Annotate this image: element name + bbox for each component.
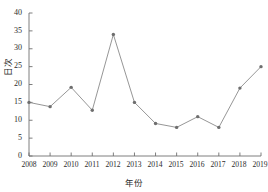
x-axis-ticks <box>29 153 261 157</box>
data-point-2010 <box>69 86 72 89</box>
data-point-2009 <box>48 105 51 108</box>
data-point-2015 <box>175 126 178 129</box>
series-markers <box>27 33 262 129</box>
data-point-2011 <box>91 109 94 112</box>
data-point-2017 <box>217 126 220 129</box>
data-point-2008 <box>27 101 30 104</box>
y-axis-ticks <box>29 13 33 156</box>
axes <box>29 13 261 156</box>
plot-area <box>0 0 268 192</box>
line-chart: 日次 0 5 10 15 20 25 30 35 40 2008 2009 20… <box>0 0 268 192</box>
data-point-2012 <box>112 33 115 36</box>
series-line-path <box>29 34 261 127</box>
data-point-2014 <box>154 122 157 125</box>
data-point-2018 <box>238 86 241 89</box>
data-point-2019 <box>259 65 262 68</box>
data-point-2013 <box>133 101 136 104</box>
data-point-2016 <box>196 115 199 118</box>
